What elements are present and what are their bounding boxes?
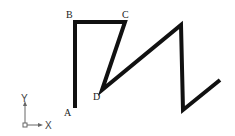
point-label-a: A: [64, 107, 72, 118]
point-label-c: C: [122, 9, 129, 20]
point-label-b: B: [66, 9, 73, 20]
y-axis-label: Y: [21, 93, 28, 104]
ucs-origin-icon: [23, 123, 27, 127]
point-label-d: D: [93, 91, 100, 102]
ucs-icon: Y X: [21, 93, 52, 131]
drawing-canvas: B C D A Y X: [0, 0, 235, 136]
x-axis-label: X: [45, 120, 52, 131]
